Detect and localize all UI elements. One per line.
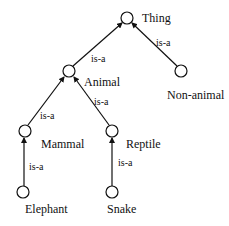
edge-label-elephant-mammal: is-a [29,162,43,172]
node-non-animal [175,65,187,77]
label-elephant: Elephant [25,203,68,215]
node-animal [63,65,75,77]
diagram-graphics [0,0,229,226]
node-thing [121,12,133,24]
edge-label-mammal-animal: is-a [40,111,54,121]
edge-label-nonanimal-thing: is-a [156,38,170,48]
edge-label-reptile-animal: is-a [94,97,108,107]
label-non-animal: Non-animal [167,89,224,101]
label-thing: Thing [142,12,171,24]
node-elephant [17,186,29,198]
edge-label-snake-reptile: is-a [118,158,132,168]
node-mammal [19,125,31,137]
is-a-diagram: Thing Animal Non-animal Mammal Reptile E… [0,0,229,226]
label-mammal: Mammal [41,138,84,150]
edge-label-animal-thing: is-a [91,54,105,64]
node-reptile [106,125,118,137]
node-snake [106,186,118,198]
label-animal: Animal [84,76,120,88]
label-reptile: Reptile [126,138,161,150]
label-snake: Snake [107,203,136,215]
